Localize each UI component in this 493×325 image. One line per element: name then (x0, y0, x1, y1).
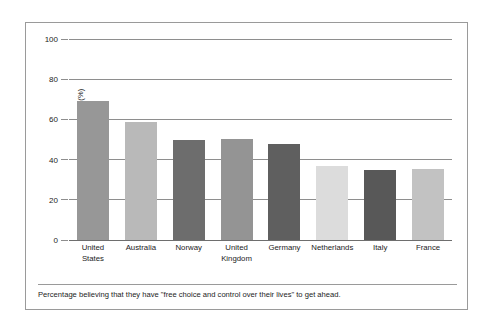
y-tick-60 (61, 119, 68, 120)
x-axis-label-italy: Italy (356, 243, 404, 254)
bar-united-states (77, 101, 109, 240)
bar-netherlands (316, 166, 348, 240)
x-label-line: Kingdom (221, 254, 252, 263)
bar-norway (173, 140, 205, 241)
x-label-line: Norway (175, 243, 201, 252)
x-label-line: States (82, 254, 104, 263)
x-label-line: France (416, 243, 440, 252)
caption-divider (38, 284, 457, 285)
y-tick-0 (61, 240, 68, 241)
bar-united-kingdom (221, 139, 253, 241)
x-label-line: Netherlands (311, 243, 353, 252)
y-tick-label-100: 100 (32, 35, 58, 44)
bar-france (412, 169, 444, 240)
bar-germany (268, 144, 300, 240)
x-label-line: United (82, 243, 105, 252)
x-axis-label-united-kingdom: UnitedKingdom (213, 243, 261, 264)
x-axis-label-netherlands: Netherlands (308, 243, 356, 254)
x-label-line: Italy (373, 243, 387, 252)
plot-area: 020406080100 (69, 39, 452, 240)
x-label-line: United (225, 243, 248, 252)
x-label-line: Australia (126, 243, 156, 252)
x-axis-labels: UnitedStatesAustraliaNorwayUnitedKingdom… (69, 243, 452, 277)
y-tick-label-60: 60 (32, 115, 58, 124)
y-tick-label-40: 40 (32, 155, 58, 164)
bar-series (69, 39, 452, 240)
y-tick-label-0: 0 (32, 236, 58, 245)
y-tick-20 (61, 199, 68, 200)
y-tick-label-80: 80 (32, 75, 58, 84)
y-tick-label-20: 20 (32, 195, 58, 204)
bar-australia (125, 122, 157, 240)
y-tick-100 (61, 39, 68, 40)
figure-caption: Percentage believing that they have "fre… (38, 289, 457, 300)
y-tick-80 (61, 79, 68, 80)
figure-frame: Percentage (%) 020406080100 UnitedStates… (25, 22, 468, 310)
x-axis-label-france: France (404, 243, 452, 254)
x-axis-label-germany: Germany (261, 243, 309, 254)
bar-italy (364, 170, 396, 240)
x-axis-label-united-states: UnitedStates (69, 243, 117, 264)
chart-plot-region: Percentage (%) 020406080100 UnitedStates… (26, 23, 469, 285)
y-tick-40 (61, 159, 68, 160)
x-axis-label-australia: Australia (117, 243, 165, 254)
x-axis-label-norway: Norway (165, 243, 213, 254)
x-label-line: Germany (268, 243, 300, 252)
